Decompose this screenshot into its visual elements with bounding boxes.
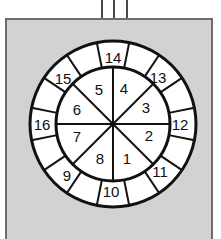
outer-segment-label: 12 xyxy=(172,116,189,133)
figure-root: 14131211109161543218765 xyxy=(0,0,221,239)
inner-sector-label: 8 xyxy=(96,150,104,167)
outer-segment-label: 13 xyxy=(150,69,167,86)
inner-sector-label: 3 xyxy=(142,99,150,116)
outer-segment-label: 11 xyxy=(152,163,168,180)
outer-segment-label: 15 xyxy=(55,70,72,87)
outer-segment-label: 9 xyxy=(63,167,71,184)
outer-segment-label: 10 xyxy=(103,183,120,200)
outer-segment-label: 14 xyxy=(105,49,122,66)
inner-sector-label: 1 xyxy=(123,150,131,167)
inner-sector-label: 5 xyxy=(95,81,103,98)
inner-sector-label: 6 xyxy=(73,101,81,118)
outer-segment-label: 16 xyxy=(34,116,51,133)
inner-sector-label: 7 xyxy=(73,128,81,145)
inner-sector-label: 2 xyxy=(145,127,153,144)
inner-sector-label: 4 xyxy=(120,80,128,97)
segmented-disc: 14131211109161543218765 xyxy=(0,0,221,239)
